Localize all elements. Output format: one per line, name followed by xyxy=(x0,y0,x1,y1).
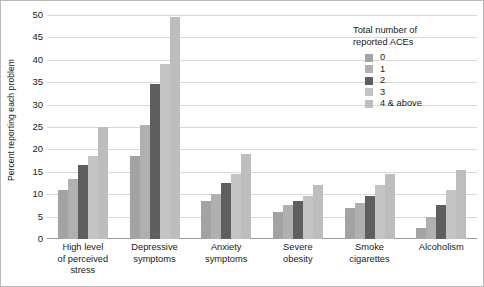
bar xyxy=(170,17,180,239)
y-axis-tick-label: 45 xyxy=(17,33,43,43)
legend-entry: 4 & above xyxy=(365,98,475,110)
x-axis-tick-labels: High level of perceived stressDepressive… xyxy=(47,242,477,277)
x-axis-tick-label: High level of perceived stress xyxy=(47,242,119,277)
x-axis-tick-label: Severe obesity xyxy=(262,242,334,277)
bar xyxy=(58,190,68,239)
bar xyxy=(345,208,355,239)
legend-swatch-icon xyxy=(365,88,373,96)
y-axis-tick-labels: 50454035302520151050 xyxy=(17,15,43,239)
bar xyxy=(375,185,385,239)
y-axis-tick-label: 0 xyxy=(17,234,43,244)
x-axis-tick-label: Smoke cigarettes xyxy=(334,242,406,277)
legend-swatch-icon xyxy=(365,65,373,73)
legend-entry: 1 xyxy=(365,64,475,76)
legend-label: 4 & above xyxy=(380,99,422,108)
legend-swatch-icon xyxy=(365,100,373,108)
x-axis-tick-label: Alcoholism xyxy=(405,242,477,277)
y-axis-tick-label: 15 xyxy=(17,167,43,177)
y-axis-tick-label: 20 xyxy=(17,145,43,155)
bar xyxy=(283,205,293,239)
bar xyxy=(150,84,160,239)
y-axis-tick-label: 25 xyxy=(17,122,43,132)
bar xyxy=(68,179,78,239)
bar-group xyxy=(119,15,191,239)
bar xyxy=(313,185,323,239)
x-axis-tick-label: Depressive symptoms xyxy=(119,242,191,277)
legend-label: 3 xyxy=(380,88,385,97)
bar xyxy=(385,174,395,239)
bar xyxy=(273,212,283,239)
legend-title: Total number of reported ACEs xyxy=(353,25,475,48)
legend-label: 1 xyxy=(380,65,385,74)
legend-label: 2 xyxy=(380,76,385,85)
y-axis-tick-label: 50 xyxy=(17,10,43,20)
legend: Total number of reported ACEs 01234 & ab… xyxy=(353,25,475,110)
bar xyxy=(303,196,313,239)
bar xyxy=(446,190,456,239)
bar xyxy=(211,194,221,239)
bar-group xyxy=(262,15,334,239)
bar xyxy=(365,196,375,239)
bar xyxy=(78,165,88,239)
bar xyxy=(355,203,365,239)
legend-swatch-icon xyxy=(365,77,373,85)
bar xyxy=(416,228,426,239)
bar xyxy=(456,170,466,239)
legend-entry: 3 xyxy=(365,87,475,99)
y-axis-tick-label: 10 xyxy=(17,189,43,199)
legend-swatch-icon xyxy=(365,54,373,62)
bar-chart-figure: Percent reporting each problem 504540353… xyxy=(0,0,484,287)
bar xyxy=(88,156,98,239)
bar xyxy=(130,156,140,239)
bar xyxy=(221,183,231,239)
x-axis-tick-label: Anxiety symptoms xyxy=(190,242,262,277)
y-axis-title-text: Percent reporting each problem xyxy=(6,59,16,181)
bar xyxy=(231,174,241,239)
bar xyxy=(98,127,108,239)
bar xyxy=(140,125,150,239)
y-axis-tick-label: 35 xyxy=(17,77,43,87)
y-axis-tick-label: 30 xyxy=(17,100,43,110)
bar xyxy=(201,201,211,239)
bar-group xyxy=(190,15,262,239)
bar xyxy=(293,201,303,239)
bar xyxy=(241,154,251,239)
bar xyxy=(436,205,446,239)
y-axis-tick-label: 40 xyxy=(17,55,43,65)
y-axis-tick-label: 5 xyxy=(17,212,43,222)
bar xyxy=(426,217,436,239)
legend-entry: 0 xyxy=(365,52,475,64)
legend-entry: 2 xyxy=(365,75,475,87)
bar xyxy=(160,64,170,239)
legend-label: 0 xyxy=(380,53,385,62)
bar-group xyxy=(47,15,119,239)
legend-entries: 01234 & above xyxy=(353,52,475,110)
